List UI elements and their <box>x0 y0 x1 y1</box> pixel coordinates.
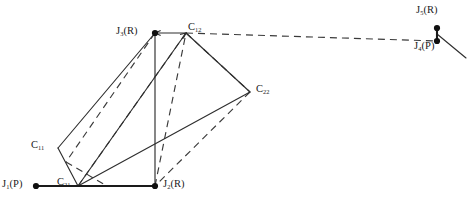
linkage-canvas <box>0 0 471 205</box>
label-joint-type: (R) <box>170 178 184 189</box>
joint-node-j2 <box>152 183 158 189</box>
joint-label-j2: J2(R) <box>163 179 185 190</box>
label-joint-type: (P) <box>421 40 434 51</box>
coupler-label-c21: C21 <box>57 177 71 188</box>
joint-label-j1: J1(P) <box>2 179 23 190</box>
joint-node-j3 <box>152 30 158 36</box>
label-subscript: 4 <box>418 45 421 52</box>
label-joint-type: (P) <box>9 178 22 189</box>
linkage-diagram: J1(P)J2(R)J3(R)J4(P)J5(R)C11C12C21C22 <box>0 0 471 205</box>
label-subscript: 1 <box>6 183 9 190</box>
joint-label-j5: J5(R) <box>416 5 438 16</box>
arrow-into-C12 <box>180 33 186 39</box>
label-subscript: 21 <box>64 181 70 188</box>
output-link-J5 <box>437 34 466 58</box>
joint-label-j4: J4(P) <box>414 41 435 52</box>
label-subscript: 5 <box>420 9 423 16</box>
label-subscript: 3 <box>120 30 123 37</box>
label-subscript: 2 <box>167 183 170 190</box>
joint-node-j5 <box>434 25 440 31</box>
coupler-C21-C12 <box>78 33 186 186</box>
coupler-label-c12: C12 <box>188 22 202 33</box>
coupler-label-c11: C11 <box>31 140 44 151</box>
alt-pose-C22-to-J2 <box>155 92 250 186</box>
solid-link-group <box>58 33 466 186</box>
joint-label-j3: J3(R) <box>116 26 138 37</box>
joint-node-group <box>33 25 440 189</box>
prismatic-axis-J4 <box>186 33 437 41</box>
ground-link-group <box>36 28 437 186</box>
alt-pose-J3-branch <box>66 33 155 162</box>
label-subscript: 22 <box>263 88 269 95</box>
coupler-C21-C22 <box>78 92 250 186</box>
coupler-J3-C11 <box>58 33 155 148</box>
coupler-label-c22: C22 <box>256 84 270 95</box>
label-subscript: 11 <box>38 144 44 151</box>
dashed-link-group <box>66 33 437 186</box>
coupler-C22-C12 <box>186 33 250 92</box>
label-subscript: 12 <box>195 26 201 33</box>
label-joint-type: (R) <box>423 4 437 15</box>
arrowhead-group <box>155 30 186 38</box>
joint-node-j1 <box>33 183 39 189</box>
label-joint-type: (R) <box>123 25 137 36</box>
